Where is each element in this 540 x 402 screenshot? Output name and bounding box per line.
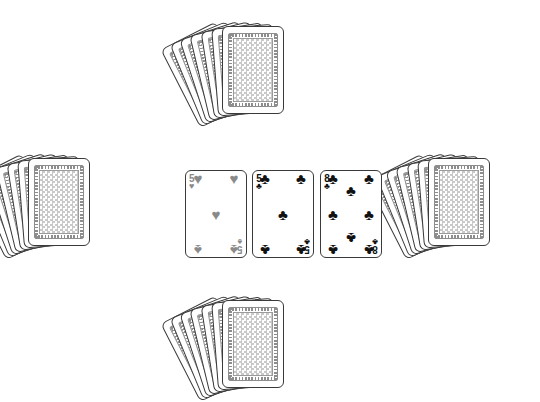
card-pip: ♣ (296, 243, 306, 258)
table-card-3[interactable]: 8♣8♣♣♣♣♣♣♣♣♣ (320, 170, 382, 258)
card-pip: ♣ (328, 207, 338, 222)
card-suit-icon: ♠ (238, 238, 243, 246)
facedown-card[interactable] (222, 300, 284, 388)
card-back-pattern (39, 170, 79, 234)
card-pip: ♣ (328, 243, 338, 258)
card-pip: ♣ (296, 171, 306, 186)
card-back-frame (34, 165, 84, 239)
card-pip: ♣ (278, 207, 288, 222)
card-pip: ♠ (194, 243, 202, 258)
card-back-frame (228, 307, 278, 381)
card-pip: ♣ (328, 171, 338, 186)
card-back-pattern (233, 38, 273, 102)
table-card-2[interactable]: 5♣5♣♣♣♣♣♣ (252, 170, 314, 258)
card-back-pattern (233, 312, 273, 376)
card-pip: ♣ (364, 171, 374, 186)
card-pip: ♣ (346, 183, 356, 198)
card-back-pattern (439, 170, 479, 234)
card-pip-grid: ♣♣♣♣♣♣♣♣ (333, 178, 369, 250)
card-pip: ♥ (194, 171, 203, 186)
card-pip: ♣ (346, 230, 356, 245)
card-pip: ♥ (212, 207, 221, 222)
facedown-card[interactable] (28, 158, 90, 246)
card-pip: ♣ (364, 243, 374, 258)
card-back-frame (228, 33, 278, 107)
card-pip: ♣ (364, 207, 374, 222)
card-index-bottom-right: 5♠ (237, 238, 243, 254)
card-pip: ♠ (230, 243, 238, 258)
card-back-frame (434, 165, 484, 239)
card-pip: ♣ (260, 243, 270, 258)
card-pip-grid: ♣♣♣♣♣ (265, 178, 301, 250)
card-pip: ♣ (260, 171, 270, 186)
facedown-card[interactable] (428, 158, 490, 246)
card-pip: ♥ (230, 171, 239, 186)
table-card-1[interactable]: 5♥5♠♥♥♥♠♠ (185, 170, 247, 258)
card-pip-grid: ♥♥♥♠♠ (198, 178, 234, 250)
facedown-card[interactable] (222, 26, 284, 114)
